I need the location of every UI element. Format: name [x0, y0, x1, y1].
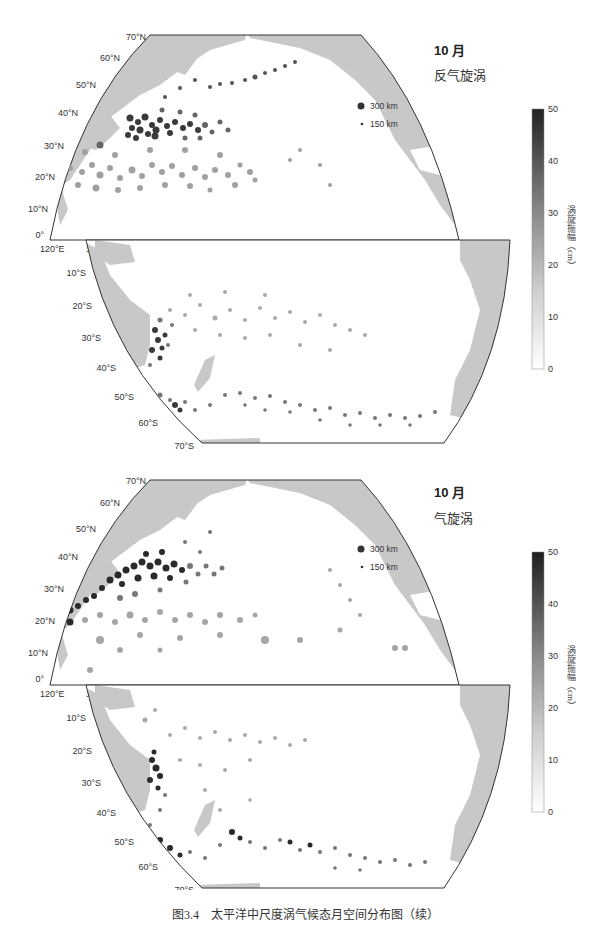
svg-text:70°N: 70°N	[126, 476, 146, 486]
svg-text:10°S: 10°S	[66, 713, 86, 723]
svg-text:50: 50	[548, 547, 558, 557]
svg-text:60°S: 60°S	[138, 418, 158, 428]
svg-text:10: 10	[548, 755, 558, 765]
svg-text:120°E: 120°E	[40, 244, 65, 254]
figure-caption: 图3.4 太平洋中尺度涡气候态月空间分布图（续）	[0, 905, 611, 923]
colorbar-title: 涡旋振幅（cm）	[565, 645, 578, 710]
svg-text:20: 20	[548, 260, 558, 270]
svg-text:60°S: 60°S	[138, 862, 158, 872]
svg-text:10°S: 10°S	[66, 268, 86, 278]
svg-text:0°: 0°	[35, 230, 44, 240]
cyclonic-map: 120°E 140°E 160°E 180° 160°W 140°W 120°W…	[0, 470, 611, 890]
svg-text:10°N: 10°N	[28, 204, 48, 214]
svg-text:30: 30	[548, 208, 558, 218]
svg-text:70°N: 70°N	[126, 32, 146, 42]
svg-text:20°S: 20°S	[72, 746, 92, 756]
anticyclonic-map: 120°E 140°E 160°E 180° 160°W 140°W 120°W…	[0, 0, 611, 470]
legend-300km-marker	[358, 103, 365, 110]
svg-text:40: 40	[548, 156, 558, 166]
svg-text:50°S: 50°S	[114, 392, 134, 402]
south-map	[80, 685, 520, 890]
svg-text:70°S: 70°S	[174, 441, 194, 451]
svg-text:30°S: 30°S	[81, 778, 101, 788]
svg-text:150 km: 150 km	[370, 562, 398, 572]
svg-text:40°S: 40°S	[96, 808, 116, 818]
legend-300km-marker	[358, 546, 365, 553]
cyclonic-panel: 120°E 140°E 160°E 180° 160°W 140°W 120°W…	[0, 470, 611, 890]
svg-text:60°N: 60°N	[100, 498, 120, 508]
svg-text:70°S: 70°S	[174, 885, 194, 890]
svg-text:20°N: 20°N	[35, 616, 55, 626]
svg-text:50°S: 50°S	[114, 837, 134, 847]
svg-text:50°N: 50°N	[76, 80, 96, 90]
svg-text:40°N: 40°N	[58, 108, 78, 118]
svg-text:10°N: 10°N	[28, 648, 48, 658]
svg-text:120°E: 120°E	[40, 689, 65, 699]
colorbar: 50 40 30 20 10 0	[532, 104, 558, 374]
colorbar-title: 涡旋振幅（cm）	[565, 205, 578, 270]
svg-text:40: 40	[548, 599, 558, 609]
svg-text:40°N: 40°N	[58, 552, 78, 562]
colorbar: 50 40 30 20 10 0	[532, 547, 558, 817]
svg-text:20: 20	[548, 703, 558, 713]
svg-text:30: 30	[548, 651, 558, 661]
eddy-type-label: 气旋涡	[434, 508, 473, 527]
svg-text:30°N: 30°N	[44, 141, 64, 151]
svg-text:150 km: 150 km	[370, 119, 398, 129]
month-label: 10 月	[434, 482, 465, 501]
anticyclonic-panel: 120°E 140°E 160°E 180° 160°W 140°W 120°W…	[0, 0, 611, 470]
svg-text:300 km: 300 km	[370, 544, 398, 554]
svg-text:10: 10	[548, 312, 558, 322]
svg-text:60°N: 60°N	[100, 53, 120, 63]
svg-text:50°N: 50°N	[76, 524, 96, 534]
eddy-type-label: 反气旋涡	[434, 65, 486, 84]
svg-text:30°N: 30°N	[44, 584, 64, 594]
legend-150km-marker	[361, 123, 364, 126]
svg-text:20°N: 20°N	[35, 172, 55, 182]
legend-150km-marker	[361, 566, 364, 569]
svg-text:300 km: 300 km	[370, 101, 398, 111]
svg-text:40°S: 40°S	[96, 363, 116, 373]
svg-text:20°S: 20°S	[72, 301, 92, 311]
svg-text:50: 50	[548, 104, 558, 114]
svg-text:0: 0	[548, 807, 553, 817]
svg-text:0°: 0°	[35, 674, 44, 684]
svg-text:30°S: 30°S	[81, 333, 101, 343]
month-label: 10 月	[434, 40, 465, 59]
svg-text:0: 0	[548, 364, 553, 374]
